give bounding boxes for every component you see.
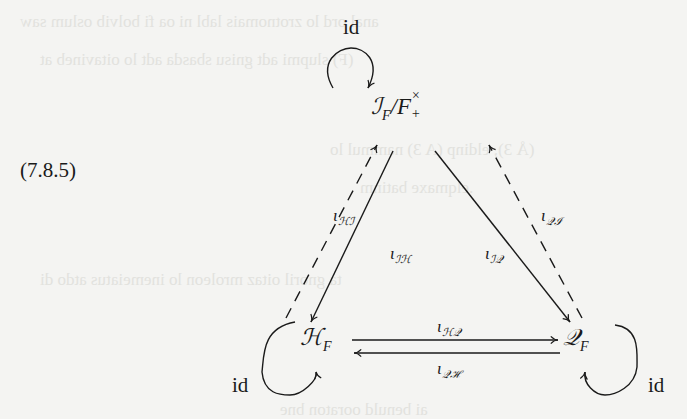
node-top-sub: F: [382, 108, 391, 123]
node-top-sup: ×: [411, 89, 420, 103]
label-H-to-Q: ιℋ𝒬: [437, 318, 461, 338]
node-Q: 𝒬F: [563, 326, 589, 354]
loop-right: [585, 325, 637, 395]
loop-top-label: id: [343, 17, 359, 38]
loop-left-label: id: [232, 375, 248, 396]
arrow-I-to-Q: [435, 151, 570, 322]
label-I-to-H: ιℐℋ: [390, 245, 411, 265]
arrow-Q-to-I: [489, 145, 582, 318]
loop-top: [328, 48, 373, 88]
node-right-base: 𝒬: [563, 324, 580, 350]
node-H: ℋF: [300, 326, 332, 354]
node-left-base: ℋ: [300, 324, 323, 350]
equation-number: (7.8.5): [20, 160, 76, 181]
loop-right-label: id: [648, 375, 664, 396]
label-Q-to-H: ι𝒬ℋ: [437, 360, 460, 380]
node-left-sub: F: [323, 339, 332, 354]
node-ideal-class: ℐF/F×+: [371, 95, 423, 123]
node-top-slash: /F: [391, 94, 411, 119]
arrow-I-to-H: [311, 151, 393, 322]
node-top-base: ℐ: [371, 93, 382, 119]
arrow-H-to-I: [286, 145, 377, 318]
node-top-subsup: +: [411, 107, 420, 121]
label-H-to-I: ιℋℐ: [333, 207, 354, 227]
node-right-sub: F: [580, 339, 589, 354]
label-Q-to-I: ι𝒬ℐ: [541, 207, 562, 227]
label-I-to-Q: ιℐ𝒬: [485, 245, 503, 265]
